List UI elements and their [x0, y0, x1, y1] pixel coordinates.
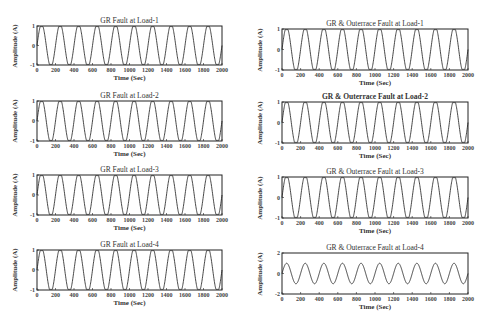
x-tick-label: 1400 [161, 217, 173, 223]
x-tick-label: 200 [296, 72, 305, 78]
x-tick-label: 800 [107, 292, 116, 298]
y-tick-label: 0 [32, 43, 35, 49]
y-tick-label: -1 [275, 140, 280, 146]
y-tick-label: -1 [30, 212, 35, 218]
x-tick-label: 1000 [369, 145, 381, 151]
x-axis-label: Time (Sec) [282, 79, 468, 87]
x-tick-label: 400 [70, 67, 79, 73]
x-tick-label: 1600 [179, 143, 191, 149]
x-axis-label: Time (Sec) [282, 303, 468, 311]
x-axis-label: Time (Sec) [37, 299, 222, 307]
x-tick-label: 1400 [406, 145, 418, 151]
x-tick-label: 400 [315, 296, 324, 302]
x-tick-label: 800 [352, 296, 361, 302]
y-tick-label: 0 [277, 195, 280, 201]
x-tick-label: 1200 [388, 220, 400, 226]
y-tick-label: 1 [32, 23, 35, 29]
x-tick-label: 0 [36, 143, 39, 149]
x-axis-label: Time (Sec) [37, 74, 222, 82]
y-tick-label: 1 [32, 247, 35, 253]
signal-line [282, 263, 468, 284]
y-axis-label: Amplitude (A) [256, 93, 264, 153]
x-tick-label: 400 [70, 217, 79, 223]
y-tick-label: 0 [277, 120, 280, 126]
y-tick-label: 1 [32, 172, 35, 178]
x-tick-label: 1000 [369, 296, 381, 302]
x-tick-label: 0 [281, 296, 284, 302]
y-axis-label: Amplitude (A) [256, 168, 264, 228]
y-tick-label: 0 [277, 47, 280, 53]
plot-area: 0200400600800100012001400160018002000-10… [37, 101, 222, 141]
y-axis-label: Amplitude (A) [256, 20, 264, 80]
x-axis-label: Time (Sec) [37, 224, 222, 232]
signal-line [282, 30, 468, 70]
chart-title: GR & Outerrace Fault at Load-3 [282, 167, 468, 176]
x-tick-label: 0 [36, 67, 39, 73]
x-tick-label: 1000 [369, 220, 381, 226]
signal-line [282, 178, 468, 218]
chart-title: GR Fault at Load-3 [37, 165, 222, 174]
x-tick-label: 0 [281, 145, 284, 151]
x-tick-label: 800 [352, 72, 361, 78]
y-tick-label: 1 [277, 99, 280, 105]
plot-area: 0200400600800100012001400160018002000-10… [282, 29, 468, 70]
x-tick-label: 800 [352, 145, 361, 151]
y-tick-label: 1 [277, 174, 280, 180]
x-tick-label: 1400 [161, 143, 173, 149]
x-tick-label: 1800 [198, 292, 210, 298]
x-tick-label: 1800 [443, 145, 455, 151]
plot-area: 0200400600800100012001400160018002000-10… [37, 175, 222, 215]
x-tick-label: 600 [333, 145, 342, 151]
x-tick-label: 1200 [142, 292, 154, 298]
x-tick-label: 1800 [198, 67, 210, 73]
x-tick-label: 600 [88, 143, 97, 149]
x-tick-label: 1400 [406, 220, 418, 226]
x-tick-label: 1200 [142, 217, 154, 223]
x-tick-label: 800 [107, 217, 116, 223]
y-axis-label: Amplitude (A) [11, 165, 19, 225]
x-tick-label: 1600 [179, 67, 191, 73]
y-tick-label: -1 [30, 138, 35, 144]
x-tick-label: 400 [70, 143, 79, 149]
x-tick-label: 1600 [179, 217, 191, 223]
x-tick-label: 1200 [142, 67, 154, 73]
x-tick-label: 1400 [161, 67, 173, 73]
y-tick-label: 0 [32, 267, 35, 273]
x-tick-label: 1000 [124, 67, 136, 73]
plot-area: 0200400600800100012001400160018002000-20… [282, 253, 468, 294]
y-axis-label: Amplitude (A) [256, 244, 264, 304]
x-tick-label: 600 [88, 292, 97, 298]
y-tick-label: -1 [30, 287, 35, 293]
y-tick-label: 2 [277, 250, 280, 256]
x-tick-label: 1200 [388, 296, 400, 302]
x-tick-label: 2000 [216, 143, 228, 149]
x-tick-label: 800 [352, 220, 361, 226]
x-tick-label: 1400 [406, 296, 418, 302]
signal-line [37, 251, 222, 290]
x-tick-label: 2000 [216, 67, 228, 73]
x-tick-label: 400 [315, 145, 324, 151]
x-tick-label: 1800 [443, 72, 455, 78]
x-tick-label: 200 [296, 220, 305, 226]
x-tick-label: 600 [333, 296, 342, 302]
x-tick-label: 1800 [443, 220, 455, 226]
signal-line [37, 102, 222, 141]
x-tick-label: 400 [315, 72, 324, 78]
x-tick-label: 600 [88, 67, 97, 73]
signal-line [282, 103, 468, 143]
x-tick-label: 1800 [198, 217, 210, 223]
chart-title: GR & Outerrace Fault at Load-4 [282, 243, 468, 252]
x-tick-label: 800 [107, 143, 116, 149]
x-tick-label: 400 [315, 220, 324, 226]
x-tick-label: 1800 [443, 296, 455, 302]
x-tick-label: 1000 [369, 72, 381, 78]
y-axis-label: Amplitude (A) [11, 16, 19, 76]
x-axis-label: Time (Sec) [282, 152, 468, 160]
chart-title: GR Fault at Load-4 [37, 240, 222, 249]
x-tick-label: 200 [51, 217, 60, 223]
x-tick-label: 1000 [124, 143, 136, 149]
x-tick-label: 1600 [425, 145, 437, 151]
y-tick-label: -1 [275, 67, 280, 73]
x-tick-label: 200 [51, 143, 60, 149]
chart-title: GR Fault at Load-2 [37, 91, 222, 100]
